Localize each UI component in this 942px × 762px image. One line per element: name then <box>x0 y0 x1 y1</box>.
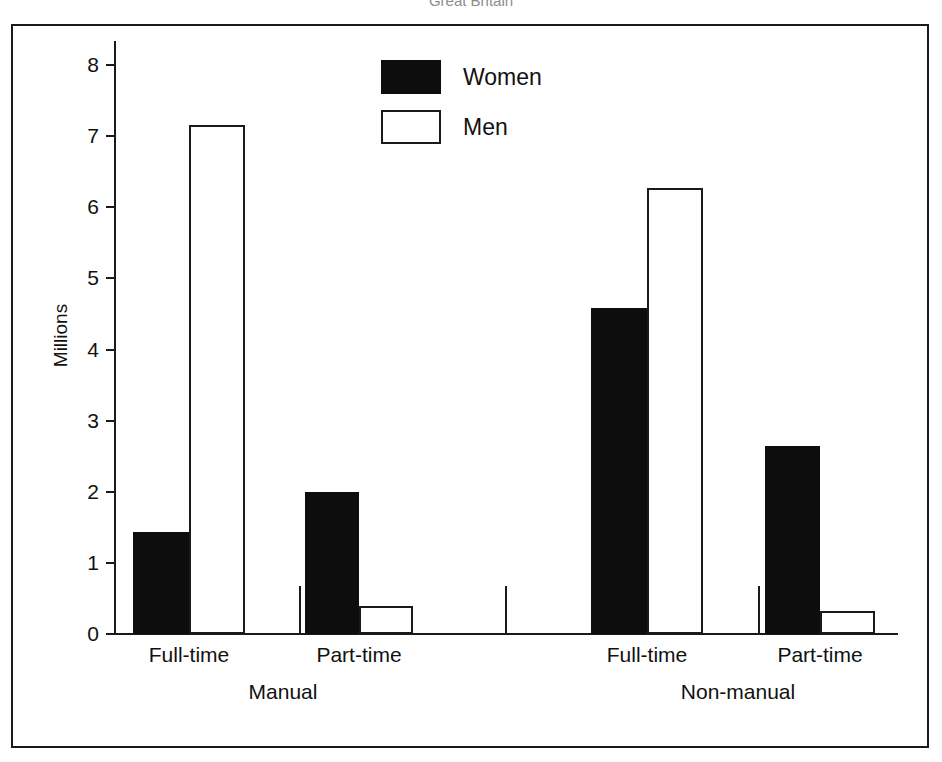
bar-men-non-manual-part-time <box>820 611 875 634</box>
y-tick-mark <box>106 277 116 279</box>
y-tick-mark <box>106 562 116 564</box>
figure-title: Great Britain <box>0 0 942 8</box>
x-axis-label: Part-time <box>279 644 439 666</box>
legend-item-women: Women <box>381 52 631 102</box>
legend-label-men: Men <box>463 116 508 139</box>
y-tick-label-text: 8 <box>73 54 99 75</box>
y-tick-label: 8 <box>65 54 99 75</box>
x-axis-label: Full-time <box>567 644 727 666</box>
chart-frame: 012345678 Millions Full-timePart-timeFul… <box>11 24 929 748</box>
y-tick-label: 1 <box>65 552 99 573</box>
x-axis-separator <box>758 586 760 634</box>
legend-swatch-women-icon <box>381 60 441 94</box>
y-axis-title: Millions <box>51 276 70 396</box>
y-tick-mark <box>106 135 116 137</box>
y-tick-label: 2 <box>65 481 99 502</box>
y-tick-mark <box>106 349 116 351</box>
y-tick-label: 3 <box>65 410 99 431</box>
plot-area: 012345678 Millions Full-timePart-timeFul… <box>13 26 927 746</box>
bar-men-non-manual-full-time <box>647 188 703 634</box>
legend-label-women: Women <box>463 66 542 89</box>
bar-women-manual-part-time <box>305 492 359 634</box>
bar-men-manual-part-time <box>359 606 413 634</box>
y-tick-label: 0 <box>65 623 99 644</box>
bar-women-manual-full-time <box>133 532 189 634</box>
y-tick-mark <box>106 491 116 493</box>
y-tick-mark <box>106 206 116 208</box>
y-tick-mark <box>106 64 116 66</box>
y-tick-label: 7 <box>65 125 99 146</box>
bar-women-non-manual-full-time <box>591 308 647 634</box>
y-tick-mark <box>106 420 116 422</box>
legend-swatch-men-icon <box>381 110 441 144</box>
y-tick-label-text: 0 <box>73 623 99 644</box>
y-tick-mark <box>106 633 116 635</box>
y-tick-label-text: 1 <box>73 552 99 573</box>
x-axis-separator <box>505 586 507 634</box>
chart-legend: WomenMen <box>381 52 631 152</box>
y-axis-line <box>114 41 116 635</box>
y-tick-label-text: 3 <box>73 410 99 431</box>
bar-men-manual-full-time <box>189 125 245 634</box>
y-tick-label: 6 <box>65 196 99 217</box>
x-axis-label: Full-time <box>109 644 269 666</box>
x-axis-separator <box>299 586 301 634</box>
x-axis-group-label: Non-manual <box>628 681 848 703</box>
y-tick-label: 5 <box>65 267 99 288</box>
legend-item-men: Men <box>381 102 631 152</box>
y-tick-label-text: 7 <box>73 125 99 146</box>
y-tick-label-text: 5 <box>73 267 99 288</box>
y-tick-label-text: 2 <box>73 481 99 502</box>
x-axis-label: Part-time <box>740 644 900 666</box>
y-tick-label-text: 4 <box>73 339 99 360</box>
bar-women-non-manual-part-time <box>765 446 820 634</box>
y-tick-label-text: 6 <box>73 196 99 217</box>
x-axis-group-label: Manual <box>173 681 393 703</box>
